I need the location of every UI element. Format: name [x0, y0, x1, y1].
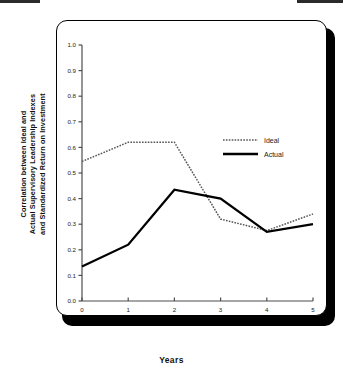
series-lines [82, 142, 313, 266]
chart-legend: IdealActual [223, 137, 284, 158]
x-axis-title: Years [0, 355, 343, 365]
y-tick-label: 0.4 [67, 195, 76, 202]
x-tick-label: 5 [311, 306, 315, 313]
y-tick-label: 0.6 [67, 144, 76, 151]
y-axis-title-line-3: and Standardized Return on Investment [38, 69, 47, 259]
x-tick-label: 3 [219, 306, 223, 313]
legend-label-actual: Actual [264, 151, 284, 158]
y-tick-label: 0.1 [67, 272, 76, 279]
y-tick-label: 0.3 [67, 220, 76, 227]
x-tick-label: 2 [173, 306, 177, 313]
y-axis-title: Correlation between Ideal and Actual Sup… [19, 69, 47, 259]
y-tick-label: 1.0 [67, 41, 76, 48]
y-tick-label: 0.5 [67, 169, 76, 176]
y-axis-title-line-1: Correlation between Ideal and [19, 69, 28, 259]
y-tick-label: 0.2 [67, 246, 76, 253]
y-axis-title-line-2: Actual Supervisory Leadership Indexes [28, 69, 37, 259]
series-line-actual [82, 190, 313, 267]
x-axis: 012345 [80, 298, 315, 314]
y-tick-label: 0.7 [67, 118, 76, 125]
plot-area: 0.00.10.20.30.40.50.60.70.80.91.0 012345… [56, 20, 327, 316]
y-tick-label: 0.0 [67, 297, 76, 304]
x-tick-label: 1 [126, 306, 130, 313]
chart-figure: Correlation between Ideal and Actual Sup… [0, 0, 343, 382]
y-tick-label: 0.9 [67, 67, 76, 74]
x-tick-label: 4 [265, 306, 269, 313]
legend-label-ideal: Ideal [264, 137, 280, 144]
x-tick-label: 0 [80, 306, 84, 313]
y-axis: 0.00.10.20.30.40.50.60.70.80.91.0 [67, 41, 82, 304]
y-tick-label: 0.8 [67, 92, 76, 99]
